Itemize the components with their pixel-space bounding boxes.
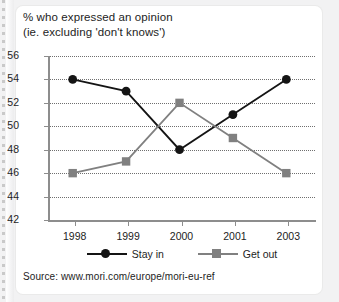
- y-axis-tick-label: 44: [0, 190, 19, 202]
- x-axis-tick: [288, 220, 289, 226]
- y-axis-line: [48, 56, 50, 221]
- x-axis-tick-label: 1998: [53, 230, 97, 242]
- legend-item-get-out[interactable]: Get out: [198, 248, 277, 260]
- legend-label-stay-in: Stay in: [132, 248, 164, 260]
- y-axis-tick-label: 48: [0, 143, 19, 155]
- square-marker-icon: [212, 249, 221, 258]
- x-axis-tick: [182, 220, 183, 226]
- gridline: [48, 79, 315, 80]
- y-axis-tick-label: 46: [0, 166, 19, 178]
- page-title: % who expressed an opinion: [23, 10, 283, 25]
- gridline: [48, 173, 315, 174]
- circle-marker-icon: [101, 249, 110, 258]
- x-axis-tick: [75, 220, 76, 226]
- y-axis-tick-label: 50: [0, 119, 19, 131]
- chart-legend: Stay in Get out: [48, 248, 316, 260]
- y-axis-tick-label: 56: [0, 49, 19, 61]
- legend-item-stay-in[interactable]: Stay in: [87, 248, 164, 260]
- legend-swatch-stay-in: [87, 249, 127, 259]
- plot-area: 4244464850525456: [48, 56, 315, 220]
- x-axis-tick: [235, 220, 236, 226]
- gridline: [48, 150, 315, 151]
- x-axis-tick: [128, 220, 129, 226]
- legend-swatch-get-out: [198, 249, 238, 259]
- gridline: [48, 103, 315, 104]
- gridline: [48, 197, 315, 198]
- source-note: Source: www.mori.com/europe/mori-eu-ref: [23, 271, 215, 282]
- chart-title-block: % who expressed an opinion (ie. excludin…: [23, 10, 283, 40]
- x-axis-tick-label: 1999: [106, 230, 150, 242]
- y-axis-tick-label: 42: [0, 213, 19, 225]
- y-axis-tick-label: 52: [0, 96, 19, 108]
- y-axis-tick-label: 54: [0, 72, 19, 84]
- x-axis-tick-label: 2001: [213, 230, 257, 242]
- chart-subtitle: (ie. excluding 'don't knows'): [23, 25, 283, 40]
- gridline: [48, 56, 315, 57]
- legend-label-get-out: Get out: [243, 248, 277, 260]
- x-axis-tick-label: 2003: [266, 230, 310, 242]
- figure-container: % who expressed an opinion (ie. excludin…: [0, 0, 339, 302]
- gridline: [48, 126, 315, 127]
- x-axis-tick-label: 2000: [160, 230, 204, 242]
